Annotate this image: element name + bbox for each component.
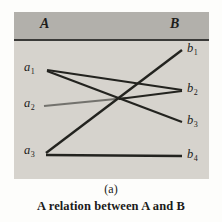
- node-a2-subscript: 2: [31, 103, 35, 112]
- node-b2-letter: b: [187, 81, 193, 95]
- node-label-b4: b4: [187, 147, 197, 162]
- node-label-b3: b3: [187, 113, 197, 128]
- edge-a3-b1: [46, 50, 182, 153]
- edge-a3-b4: [46, 155, 182, 156]
- node-label-b1: b1: [187, 41, 197, 56]
- node-a1-subscript: 1: [31, 67, 35, 76]
- node-label-b2: b2: [187, 81, 197, 96]
- edge-a1-b3: [47, 71, 182, 122]
- node-b4-subscript: 4: [194, 154, 198, 163]
- node-a2-letter: a: [24, 96, 30, 110]
- node-label-a2: a2: [24, 96, 34, 111]
- edge-a2-b2: [119, 91, 182, 99]
- node-a3-letter: a: [24, 143, 30, 157]
- node-b3-subscript: 3: [194, 120, 198, 129]
- figure-caption: A relation between A and B: [0, 199, 222, 214]
- node-a1-letter: a: [24, 60, 30, 74]
- relation-diagram-panel: A B a1 a2 a3 b1 b2: [14, 12, 209, 179]
- node-label-a3: a3: [24, 143, 34, 158]
- node-b1-subscript: 1: [194, 48, 198, 57]
- node-b1-letter: b: [187, 41, 193, 55]
- node-b4-letter: b: [187, 147, 193, 161]
- edge-a1-b2: [47, 70, 182, 90]
- node-label-a1: a1: [24, 60, 34, 75]
- relation-edges: [14, 12, 209, 179]
- relation-figure: A B a1 a2 a3 b1 b2: [0, 0, 222, 222]
- figure-sublabel: (a): [0, 182, 222, 197]
- node-b2-subscript: 2: [194, 88, 198, 97]
- node-a3-subscript: 3: [31, 150, 35, 159]
- node-b3-letter: b: [187, 113, 193, 127]
